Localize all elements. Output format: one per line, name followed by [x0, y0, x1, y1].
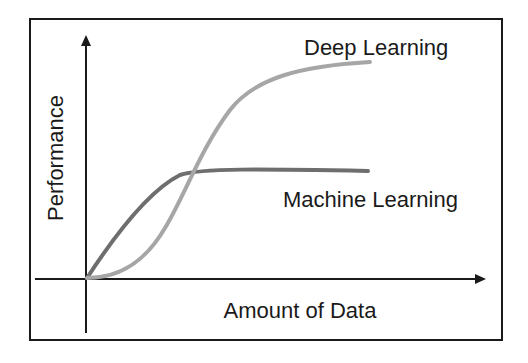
x-axis-arrow-icon: [475, 274, 486, 284]
diagram-frame: [30, 19, 502, 340]
y-axis-label: Performance: [43, 95, 68, 221]
y-axis-arrow-icon: [81, 35, 91, 46]
machine-learning-label: Machine Learning: [283, 187, 458, 212]
deep-learning-label: Deep Learning: [304, 35, 448, 60]
machine-learning-curve: [87, 170, 368, 278]
performance-vs-data-diagram: Deep Learning Machine Learning Amount of…: [0, 0, 528, 363]
x-axis-label: Amount of Data: [224, 298, 378, 323]
